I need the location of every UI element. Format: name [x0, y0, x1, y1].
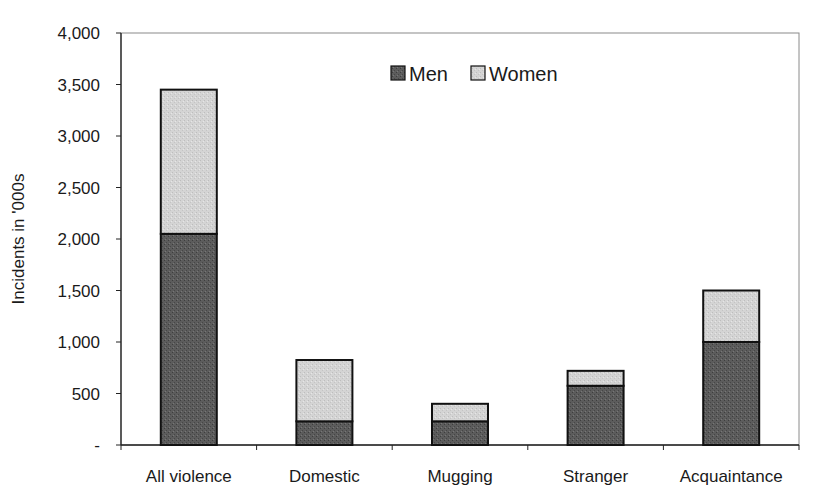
x-tick-label: All violence — [146, 467, 232, 486]
bar-segment-women — [703, 291, 759, 343]
legend: Men Women — [391, 63, 558, 85]
y-tick-label: 2,000 — [57, 230, 100, 249]
y-tick-label: 4,000 — [57, 24, 100, 43]
y-axis-title: Incidents in '000s — [9, 174, 28, 305]
y-tick-label: 3,500 — [57, 76, 100, 95]
bar-group-all-violence — [161, 90, 217, 445]
y-tick-label: 2,500 — [57, 179, 100, 198]
legend-men-swatch — [391, 66, 405, 80]
x-tick-label: Mugging — [427, 467, 492, 486]
bar-segment-women — [432, 404, 488, 422]
y-tick-label: 3,000 — [57, 127, 100, 146]
bar-group-acquaintance — [703, 291, 759, 446]
bars — [161, 90, 759, 445]
bar-segment-men — [296, 421, 352, 445]
y-tick-label: 1,500 — [57, 282, 100, 301]
y-axis: -5001,0001,5002,0002,5003,0003,5004,000 — [57, 24, 121, 455]
bar-group-domestic — [296, 360, 352, 445]
bar-segment-women — [568, 371, 624, 386]
legend-men-label: Men — [409, 63, 448, 85]
bar-group-stranger — [568, 371, 624, 445]
bar-segment-men — [703, 342, 759, 445]
stacked-bar-chart: -5001,0001,5002,0002,5003,0003,5004,000 … — [0, 0, 813, 497]
y-tick-label: 500 — [72, 385, 100, 404]
x-axis: All violenceDomesticMuggingStrangerAcqua… — [121, 445, 799, 486]
bar-segment-men — [432, 421, 488, 445]
legend-women-label: Women — [489, 63, 558, 85]
legend-women-swatch — [471, 66, 485, 80]
y-tick-label: 1,000 — [57, 333, 100, 352]
bar-segment-men — [161, 234, 217, 445]
bar-segment-women — [161, 90, 217, 234]
bar-group-mugging — [432, 404, 488, 445]
x-tick-label: Stranger — [563, 467, 629, 486]
bar-segment-men — [568, 386, 624, 445]
x-tick-label: Acquaintance — [680, 467, 783, 486]
plot-area-frame — [121, 33, 799, 445]
bar-segment-women — [296, 360, 352, 421]
x-tick-label: Domestic — [289, 467, 360, 486]
y-tick-label: - — [94, 436, 100, 455]
